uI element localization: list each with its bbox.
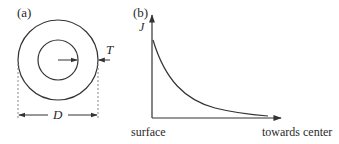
current-density-curve: [153, 40, 268, 116]
panel-b: (b) J surface towards center: [131, 5, 332, 139]
thickness-label: T: [106, 42, 114, 57]
diameter-label: D: [52, 107, 63, 122]
x-start-label: surface: [131, 125, 166, 139]
y-axis-label: J: [139, 20, 145, 34]
x-end-label: towards center: [262, 125, 332, 139]
panel-a: (a) T D: [17, 5, 114, 122]
panel-b-label: (b): [133, 5, 148, 20]
figure: (a) T D (b) J surface towards center: [0, 0, 339, 144]
panel-a-label: (a): [17, 5, 31, 20]
